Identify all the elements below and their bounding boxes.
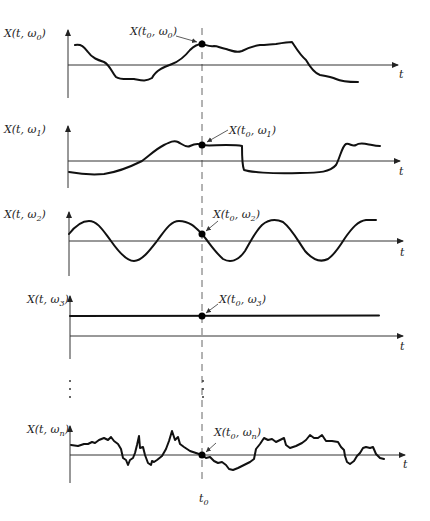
point-label: X(t0, ω0) — [129, 25, 177, 40]
leader-arrow — [176, 36, 197, 42]
y-axis-label: X(t, ω3) — [26, 293, 69, 308]
t-axis-label: t — [400, 340, 405, 353]
leader-arrow — [206, 304, 218, 313]
panel-omega1: X(t, ω1) t X(t0, ω1) — [3, 123, 404, 188]
t-axis-label: t — [399, 68, 404, 81]
leader-arrow — [207, 130, 228, 142]
y-axis-label: X(t, ω2) — [3, 208, 46, 223]
y-axis-label: X(t, ω1) — [3, 123, 46, 138]
leader-arrow — [206, 443, 216, 452]
vertical-ellipsis-left — [69, 380, 71, 398]
t0-label: t0 — [199, 492, 209, 507]
t-axis-label: t — [403, 458, 408, 471]
sample-point — [199, 231, 206, 238]
leader-arrow — [206, 221, 218, 231]
point-label: X(t0, ω2) — [212, 208, 260, 223]
random-process-figure: X(t, ω0) t X(t0, ω0) X(t, ω1) t X(t0, ω1… — [0, 0, 430, 521]
y-axis-label: X(t, ωn) — [26, 423, 69, 438]
sample-point — [199, 41, 206, 48]
panel-omega0: X(t, ω0) t X(t0, ω0) — [3, 25, 404, 98]
t-axis-label: t — [400, 246, 405, 259]
sample-path — [75, 42, 358, 82]
panel-omegan: X(t, ωn) t X(t0, ωn) — [26, 423, 408, 483]
point-label: X(t0, ω1) — [228, 124, 276, 139]
point-label: X(t0, ω3) — [218, 293, 266, 308]
panel-omega3: X(t, ω3) t X(t0, ω3) — [26, 293, 405, 359]
y-axis-label: X(t, ω0) — [3, 27, 46, 42]
sample-point — [199, 142, 206, 149]
sample-point — [199, 452, 206, 459]
sample-path — [70, 316, 379, 317]
sample-path — [69, 141, 380, 174]
t-axis-label: t — [399, 165, 404, 178]
panel-omega2: X(t, ω2) t X(t0, ω2) — [3, 208, 405, 276]
point-label: X(t0, ωn) — [213, 426, 261, 441]
sample-point — [199, 313, 206, 320]
